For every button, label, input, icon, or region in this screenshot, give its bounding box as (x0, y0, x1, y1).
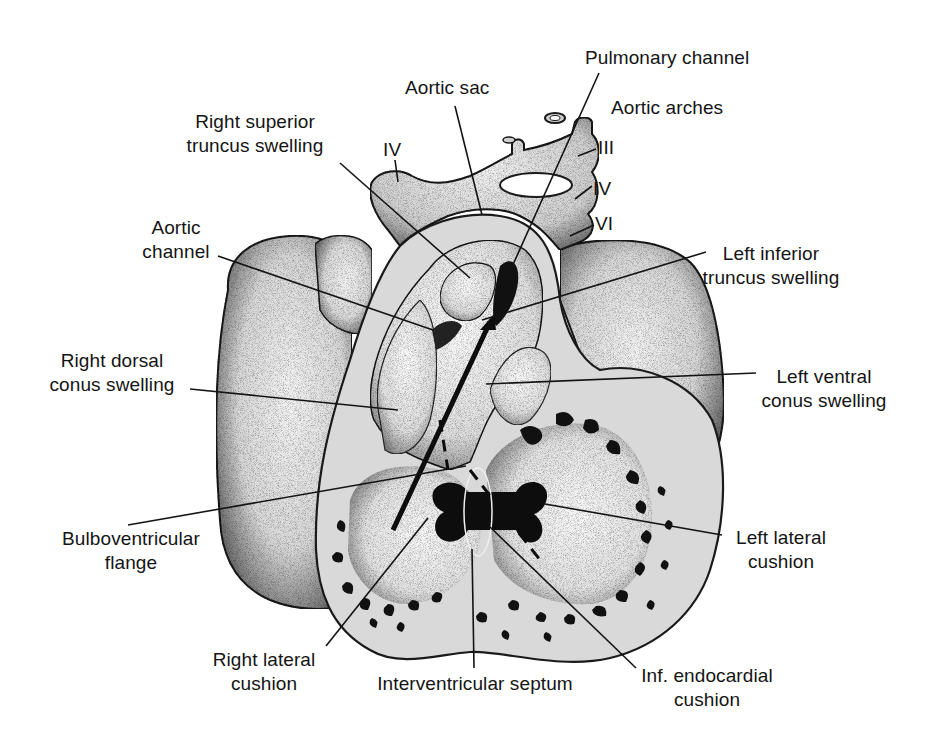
label-arch-iii: III (598, 136, 614, 160)
label-right-superior-truncus-swelling: Right superior truncus swelling (170, 110, 340, 158)
label-right-lateral-cushion: Right lateral cushion (205, 648, 323, 696)
label-left-inferior-truncus-swelling: Left inferior truncus swelling (685, 242, 857, 290)
label-arch-iv-right: IV (383, 138, 401, 162)
label-arch-vi: VI (595, 212, 613, 236)
label-left-lateral-cushion: Left lateral cushion (722, 526, 840, 574)
label-bulboventricular-flange: Bulboventricular flange (44, 527, 218, 575)
label-aortic-sac: Aortic sac (405, 76, 489, 100)
label-right-dorsal-conus-swelling: Right dorsal conus swelling (34, 349, 190, 397)
label-interventricular-septum: Interventricular septum (362, 672, 588, 696)
label-aortic-arches: Aortic arches (611, 96, 723, 120)
label-pulmonary-channel: Pulmonary channel (585, 46, 749, 70)
heart-diagram: Pulmonary channel Aortic sac Aortic arch… (0, 0, 927, 730)
label-aortic-channel: Aortic channel (134, 216, 218, 264)
label-left-ventral-conus-swelling: Left ventral conus swelling (748, 365, 900, 413)
label-inf-endocardial-cushion: Inf. endocardial cushion (632, 664, 782, 712)
label-arch-iv-left: IV (593, 177, 611, 201)
